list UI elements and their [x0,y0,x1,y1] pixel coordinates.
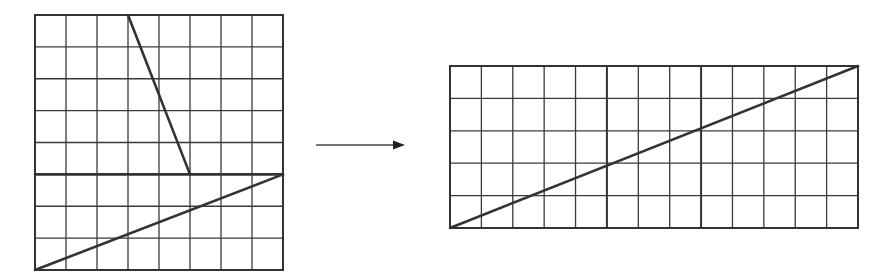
transform-arrow [316,141,405,150]
main-diagonal [450,66,858,228]
rectangle-13x5-grid [450,66,858,228]
square-8x8-grid [35,15,283,270]
dissection-diagram [0,0,880,272]
arrow-head-icon [393,141,405,150]
